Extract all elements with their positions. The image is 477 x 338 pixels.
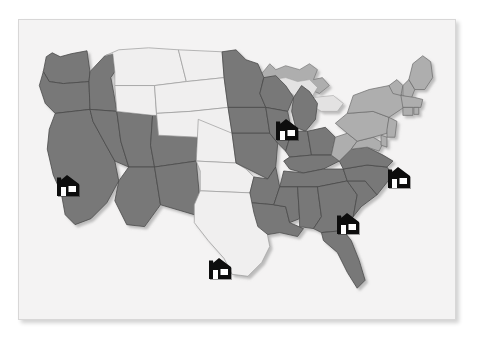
house-icon bbox=[383, 164, 413, 190]
state-CT bbox=[403, 107, 413, 115]
state-WY bbox=[115, 86, 157, 116]
state-RI bbox=[414, 107, 419, 114]
state-IA bbox=[228, 107, 270, 133]
house-icon bbox=[271, 116, 301, 142]
state-DE bbox=[381, 135, 387, 147]
marker-georgia[interactable] bbox=[332, 210, 362, 236]
house-icon bbox=[52, 172, 82, 198]
marker-california[interactable] bbox=[52, 172, 82, 198]
house-icon bbox=[204, 255, 234, 281]
state-NJ bbox=[387, 117, 397, 137]
screenshot-root bbox=[0, 0, 477, 338]
house-icon bbox=[332, 210, 362, 236]
marker-texas[interactable] bbox=[204, 255, 234, 281]
marker-illinois[interactable] bbox=[271, 116, 301, 142]
marker-virginia[interactable] bbox=[383, 164, 413, 190]
state-WA bbox=[43, 51, 90, 84]
state-MT bbox=[105, 48, 186, 86]
map-panel bbox=[18, 19, 456, 320]
state-ND bbox=[178, 50, 224, 82]
